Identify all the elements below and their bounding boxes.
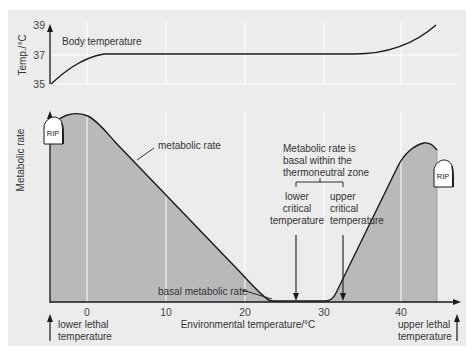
lower-critical-line2: critical [283,203,311,214]
xtick-40: 40 [395,306,407,318]
metabolic-rate-label: metabolic rate [158,140,221,151]
lower-lethal-line1: lower lethal [58,319,109,330]
xtick-30: 30 [318,306,330,318]
upper-critical-line3: temperature [330,215,384,226]
rip-right-label: RIP [437,172,450,181]
top-ytick-37: 37 [33,49,45,61]
zone-label-line1: Metabolic rate is [283,143,356,154]
top-y-axis-label: Temp./°C [17,34,28,75]
top-ytick-35: 35 [33,78,45,90]
body-temperature-label: Body temperature [62,36,142,47]
top-ytick-39: 39 [33,19,45,31]
thermoregulation-figure: 39 37 35 Temp./°C Body temperature Metab… [0,0,475,356]
lower-critical-line1: lower [285,191,310,202]
bottom-y-axis-label: Metabolic rate [15,128,26,191]
lower-lethal-line2: temperature [58,331,112,342]
xtick-10: 10 [160,306,172,318]
tombstone-right-icon: RIP [434,160,454,187]
xtick-0: 0 [84,306,90,318]
x-axis-label: Environmental temperature/°C [181,319,316,330]
rip-left-label: RIP [47,129,60,138]
xtick-20: 20 [239,306,251,318]
upper-critical-line1: upper [330,191,356,202]
lower-critical-line3: temperature [270,215,324,226]
zone-label-line3: thermoneutral zone [283,167,370,178]
upper-critical-line2: critical [330,203,358,214]
tombstone-left-icon: RIP [44,117,64,144]
zone-label-line2: basal within the [283,155,352,166]
upper-lethal-line1: upper lethal [398,319,450,330]
upper-lethal-line2: temperature [398,331,452,342]
basal-metabolic-rate-label: basal metabolic rate [158,286,248,297]
